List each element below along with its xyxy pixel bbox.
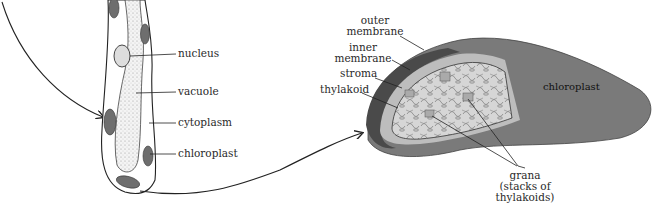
label-thylakoid: thylakoid [320,84,369,95]
label-chloroplast-body: chloroplast [543,81,600,92]
outer-membrane-line2: membrane [345,26,405,37]
cell-to-chloroplast-arrow [140,133,362,194]
label-nucleus: nucleus [178,48,219,59]
chloroplast-3d [366,38,651,157]
diagram: nucleus vacuole cytoplasm chloroplast ou… [0,0,661,213]
label-grana: grana (stacks of thylakoids) [493,170,557,203]
label-stroma: stroma [340,68,377,79]
left-arc-arrow [2,2,103,117]
grana-line3: thylakoids) [493,192,557,203]
plant-cell [102,0,156,194]
diagram-art [0,0,661,213]
nucleus-shape [114,45,130,67]
label-cytoplasm: cytoplasm [178,117,232,128]
inner-membrane-line2: membrane [333,53,393,64]
label-chloroplast-cell: chloroplast [178,148,238,159]
label-outer-membrane: outer membrane [345,15,405,37]
label-inner-membrane: inner membrane [333,42,393,64]
label-vacuole: vacuole [178,86,219,97]
